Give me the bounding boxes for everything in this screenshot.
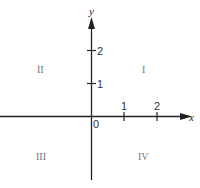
y-tick-label-2: 2 (97, 45, 103, 57)
quadrant-label-i: I (142, 64, 145, 75)
coordinate-plane: y x 0 2 1 1 2 II I III IV (0, 0, 200, 188)
origin-label: 0 (93, 118, 99, 130)
x-tick-label-2: 2 (154, 100, 160, 112)
y-axis-label: y (88, 5, 94, 17)
quadrant-label-ii: II (37, 64, 44, 75)
x-tick-label-1: 1 (121, 100, 127, 112)
quadrant-label-iii: III (36, 151, 46, 162)
x-axis-label: x (188, 111, 194, 123)
y-tick-label-1: 1 (97, 78, 103, 90)
y-axis-arrow-icon (88, 17, 95, 29)
quadrant-label-iv: IV (138, 151, 149, 162)
